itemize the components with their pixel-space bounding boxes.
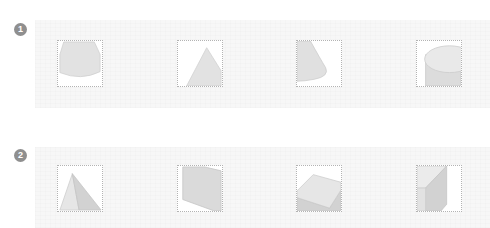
view-frame-1-1: [57, 40, 103, 87]
cone-side-view-icon: [178, 41, 222, 86]
view-frame-2-1: [57, 165, 103, 212]
view-frame-2-4: [416, 165, 462, 212]
view-frame-1-4: [416, 40, 462, 87]
view-frame-1-3: [296, 40, 342, 87]
slab-partial-view-icon: [297, 166, 341, 211]
frustum-view-icon: [58, 41, 102, 86]
exercise-2: 2: [0, 125, 490, 228]
cone-partial-view-icon: [297, 41, 341, 86]
view-frame-2-3: [296, 165, 342, 212]
exercise-number-badge: 2: [14, 149, 27, 162]
view-frame-1-2: [177, 40, 223, 87]
pyramid-view-icon: [58, 166, 102, 211]
quadrilateral-face-icon: [178, 166, 222, 211]
prism-corner-view-icon: [417, 166, 461, 211]
cylinder-partial-view-icon: [417, 41, 461, 86]
view-frame-2-2: [177, 165, 223, 212]
exercise-1: 1: [0, 0, 490, 114]
exercise-number-badge: 1: [14, 23, 27, 36]
